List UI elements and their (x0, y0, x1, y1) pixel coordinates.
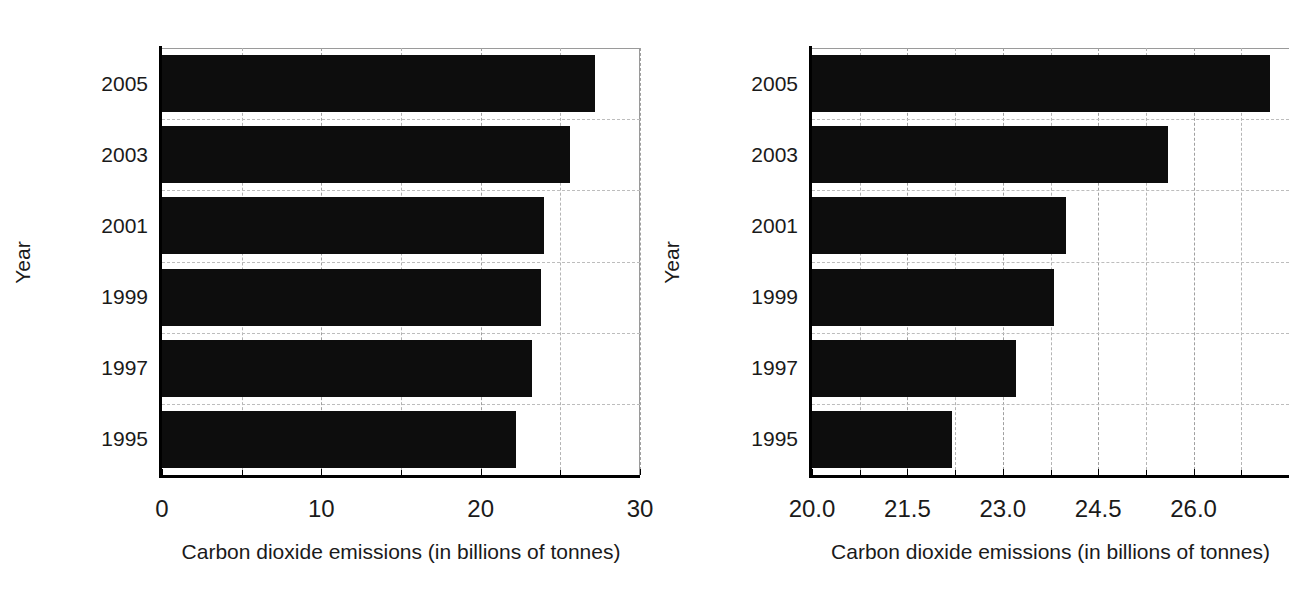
bar (162, 340, 532, 397)
chart-panel-left: 200520032001199919971995 0102030 Year Ca… (0, 0, 660, 612)
x-tick-label: 23.0 (979, 497, 1026, 521)
gridline-horizontal (812, 262, 1289, 264)
x-tick-label: 24.5 (1075, 497, 1122, 521)
x-tick-mark (321, 469, 322, 475)
x-tick-mark-minor (242, 470, 243, 475)
y-tick-label: 1995 (617, 428, 798, 449)
x-axis-line-right (809, 475, 1289, 478)
x-axis-title-right: Carbon dioxide emissions (in billions of… (812, 541, 1289, 562)
gridline-horizontal (812, 333, 1289, 335)
x-axis-line-left (159, 475, 640, 478)
bar (812, 340, 1016, 397)
x-tick-label: 21.5 (884, 497, 931, 521)
x-tick-mark (162, 469, 163, 475)
bar (162, 197, 544, 254)
gridline-horizontal (812, 190, 1289, 192)
x-tick-label: 10 (308, 497, 335, 521)
bar (812, 55, 1270, 112)
bar (812, 269, 1054, 326)
x-tick-mark-minor (401, 470, 402, 475)
y-tick-label: 1995 (0, 428, 148, 449)
chart-panel-right: 200520032001199919971995 20.021.523.024.… (617, 0, 1277, 612)
x-tick-mark (1194, 469, 1195, 475)
plot-area-left (162, 48, 640, 475)
x-tick-mark (481, 469, 482, 475)
y-tick-label: 2003 (617, 144, 798, 165)
x-tick-label: 26.0 (1170, 497, 1217, 521)
bar (162, 126, 570, 183)
y-axis-line-left (159, 46, 162, 478)
x-tick-mark (907, 469, 908, 475)
gridline-horizontal (812, 404, 1289, 406)
x-tick-mark-minor (955, 470, 956, 475)
x-tick-mark-minor (1051, 470, 1052, 475)
y-tick-label: 2001 (617, 215, 798, 236)
x-tick-mark-minor (1146, 470, 1147, 475)
y-tick-label: 2005 (617, 73, 798, 94)
x-tick-mark-minor (860, 470, 861, 475)
x-tick-mark-minor (1241, 470, 1242, 475)
bar (162, 269, 541, 326)
y-tick-label: 1997 (0, 357, 148, 378)
y-axis-line-right (809, 46, 812, 478)
x-tick-label: 0 (155, 497, 168, 521)
y-axis-title-right: Year (661, 202, 682, 322)
bar (162, 55, 595, 112)
x-tick-mark (812, 469, 813, 475)
gridline-horizontal (162, 333, 640, 335)
y-axis-title-left: Year (12, 202, 33, 322)
bar (812, 126, 1168, 183)
gridline-horizontal (162, 262, 640, 264)
gridline-horizontal (812, 119, 1289, 121)
x-tick-mark-minor (560, 470, 561, 475)
x-tick-label: 20 (467, 497, 494, 521)
x-tick-mark (1003, 469, 1004, 475)
y-tick-label: 2005 (0, 73, 148, 94)
x-tick-label: 20.0 (789, 497, 836, 521)
y-tick-label: 1997 (617, 357, 798, 378)
x-tick-mark (1098, 469, 1099, 475)
gridline-horizontal (162, 404, 640, 406)
bar (812, 197, 1066, 254)
bar (812, 411, 952, 468)
bar (162, 411, 516, 468)
gridline-horizontal (162, 119, 640, 121)
y-tick-label: 1999 (617, 286, 798, 307)
plot-area-right (812, 48, 1289, 475)
gridline-horizontal (162, 190, 640, 192)
x-axis-title-left: Carbon dioxide emissions (in billions of… (162, 541, 640, 562)
y-tick-label: 2003 (0, 144, 148, 165)
